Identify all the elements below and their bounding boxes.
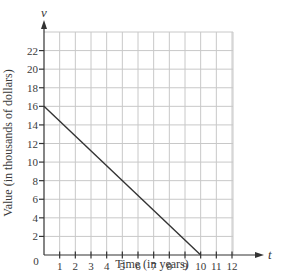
y-tick-label: 6 xyxy=(33,193,39,205)
y-tick-label: 22 xyxy=(27,45,38,57)
y-axis-variable: v xyxy=(41,5,47,20)
tick-labels: 123456789101112246810121416182022 xyxy=(27,45,238,272)
y-tick-label: 4 xyxy=(33,212,39,224)
y-axis-arrow-icon xyxy=(41,20,47,29)
x-tick-label: 11 xyxy=(211,260,222,272)
x-axis-title: Time (in years) xyxy=(115,257,189,271)
x-axis-arrow-icon xyxy=(255,252,264,258)
axes xyxy=(39,20,264,259)
y-axis-title: Value (in thousands of dollars) xyxy=(1,69,15,216)
origin-label: 0 xyxy=(33,255,39,267)
x-tick-label: 12 xyxy=(227,260,238,272)
y-tick-label: 8 xyxy=(33,175,39,187)
x-tick-label: 3 xyxy=(88,260,94,272)
y-tick-label: 14 xyxy=(27,119,39,131)
value-over-time-chart: 123456789101112246810121416182022 t v 0 … xyxy=(0,0,281,274)
y-tick-label: 2 xyxy=(33,230,39,242)
y-tick-label: 16 xyxy=(27,100,39,112)
y-tick-label: 12 xyxy=(27,138,38,150)
y-tick-label: 20 xyxy=(27,63,39,75)
x-tick-label: 1 xyxy=(57,260,63,272)
y-tick-label: 18 xyxy=(27,82,39,94)
grid-lines xyxy=(44,32,233,255)
x-axis-variable: t xyxy=(268,247,272,262)
y-tick-label: 10 xyxy=(27,156,39,168)
x-tick-label: 10 xyxy=(195,260,207,272)
x-tick-label: 4 xyxy=(104,260,110,272)
x-tick-label: 2 xyxy=(73,260,79,272)
